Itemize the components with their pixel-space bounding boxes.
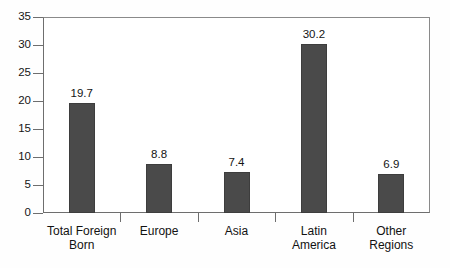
x-axis-category-label: Other Regions — [353, 224, 430, 252]
bar-value-label: 8.8 — [134, 149, 184, 161]
bar-chart: 05101520253035 19.78.87.430.26.9 Total F… — [0, 0, 450, 268]
bar-value-label: 19.7 — [57, 88, 107, 100]
y-axis-tick — [33, 157, 43, 158]
y-axis-tick — [33, 129, 43, 130]
y-axis-tick — [33, 213, 43, 214]
y-axis-tick — [33, 17, 43, 18]
bar-value-label: 30.2 — [289, 29, 339, 41]
y-axis-tick — [33, 101, 43, 102]
y-axis-tick-label: 0 — [0, 207, 31, 218]
x-axis-separator-tick — [120, 213, 121, 222]
y-axis-tick-label: 15 — [0, 123, 31, 134]
y-axis-tick-label: 25 — [0, 67, 31, 78]
x-axis-category-label: Asia — [198, 224, 275, 238]
y-axis-tick-label: 20 — [0, 95, 31, 106]
bar — [69, 103, 95, 213]
y-axis-tick — [33, 73, 43, 74]
bar — [378, 174, 404, 213]
x-axis-separator-tick — [198, 213, 199, 222]
y-axis-tick-label: 5 — [0, 179, 31, 190]
x-axis-separator-tick — [275, 213, 276, 222]
x-axis-category-label: Latin America — [275, 224, 352, 252]
y-axis-tick-label: 10 — [0, 151, 31, 162]
bar — [301, 44, 327, 213]
bar — [146, 164, 172, 213]
y-axis-tick — [33, 45, 43, 46]
y-axis-tick — [33, 185, 43, 186]
x-axis-separator-tick — [353, 213, 354, 222]
bar-value-label: 6.9 — [366, 159, 416, 171]
bar — [224, 172, 250, 213]
x-axis-category-label: Total Foreign Born — [43, 224, 120, 252]
y-axis-tick-label: 30 — [0, 39, 31, 50]
y-axis-tick-label: 35 — [0, 11, 31, 22]
x-axis-category-label: Europe — [120, 224, 197, 238]
bar-value-label: 7.4 — [212, 157, 262, 169]
